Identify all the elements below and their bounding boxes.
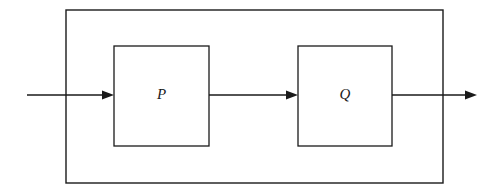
block-q-label: Q xyxy=(340,86,351,102)
intermediate-arrowhead-icon xyxy=(286,91,298,100)
block-diagram-canvas: P Q xyxy=(0,0,503,196)
input-arrowhead-icon xyxy=(102,91,114,100)
output-arrowhead-icon xyxy=(465,91,477,100)
block-p-label: P xyxy=(156,86,166,102)
